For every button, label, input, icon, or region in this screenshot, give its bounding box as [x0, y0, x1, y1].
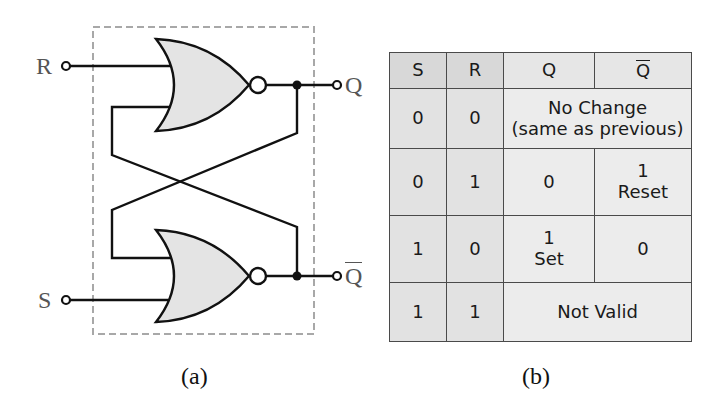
caption-a: (a): [181, 364, 208, 388]
no-change-line2: (same as previous): [504, 119, 691, 140]
table-row: 1 0 1 Set 0: [390, 216, 692, 283]
caption-b: (b): [522, 364, 550, 388]
circuit-drawing: [0, 0, 370, 416]
cell-s: 1: [390, 283, 447, 342]
cell-q-set: 1 Set: [504, 216, 595, 283]
nor-gate-bottom: [156, 230, 266, 322]
cell-r: 0: [447, 216, 504, 283]
qbar-value: 1: [595, 161, 691, 182]
cell-not-valid: Not Valid: [504, 283, 692, 342]
cell-no-change: No Change (same as previous): [504, 89, 692, 149]
junction-dot-qbar: [293, 272, 302, 281]
cell-s: 1: [390, 216, 447, 283]
q-value: 1: [504, 228, 594, 249]
junction-dot-q: [293, 81, 302, 90]
header-qbar-text: Q: [636, 60, 650, 80]
terminal-s: [62, 296, 70, 304]
label-q-output: Q: [345, 73, 362, 97]
qbar-text: Q: [345, 262, 362, 288]
table-row: 0 1 0 1 Reset: [390, 149, 692, 216]
cell-r: 1: [447, 283, 504, 342]
table-row: 1 1 Not Valid: [390, 283, 692, 342]
terminal-qbar: [333, 272, 341, 280]
cell-r: 1: [447, 149, 504, 216]
sr-latch-circuit: R S Q Q (a): [0, 0, 370, 416]
terminal-q: [333, 81, 341, 89]
terminal-r: [62, 62, 70, 70]
truth-table: S R Q Q 0 0 No Change (same as previous)…: [389, 52, 692, 342]
label-r-input: R: [36, 54, 52, 78]
cell-s: 0: [390, 149, 447, 216]
nor-gate-top: [156, 39, 266, 131]
header-s: S: [390, 53, 447, 89]
inversion-bubble-bottom: [250, 268, 266, 284]
no-change-line1: No Change: [504, 98, 691, 119]
header-q: Q: [504, 53, 595, 89]
header-qbar: Q: [595, 53, 692, 89]
label-qbar-output: Q: [345, 262, 362, 288]
cell-s: 0: [390, 89, 447, 149]
label-s-input: S: [38, 288, 51, 312]
set-label: Set: [504, 249, 594, 270]
reset-label: Reset: [595, 182, 691, 203]
cell-q: 0: [504, 149, 595, 216]
table-header-row: S R Q Q: [390, 53, 692, 89]
inversion-bubble-top: [250, 77, 266, 93]
cell-r: 0: [447, 89, 504, 149]
cell-qbar-reset: 1 Reset: [595, 149, 692, 216]
cell-qbar: 0: [595, 216, 692, 283]
header-r: R: [447, 53, 504, 89]
table-row: 0 0 No Change (same as previous): [390, 89, 692, 149]
